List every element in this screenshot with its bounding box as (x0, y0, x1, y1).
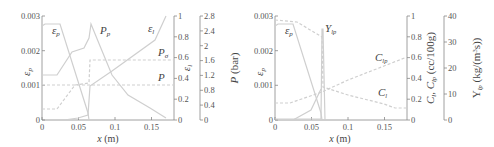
tick-label: 0 (40, 122, 44, 132)
annotation-eps-p: εp (285, 24, 293, 38)
annotation-C-l: Cl (378, 86, 387, 99)
tick-label: 0.1 (110, 122, 121, 132)
tick-label: 2.4 (204, 26, 215, 36)
tick-label: 10 (448, 89, 457, 99)
annotation-P-p: Pp (99, 24, 111, 38)
tick-label: 1 (411, 11, 415, 21)
series-Upsilon-lp (275, 29, 325, 120)
tick-label: 0.8 (204, 85, 215, 95)
tick-label: 0.2 (178, 94, 189, 104)
tick-label: 0.6 (411, 52, 422, 62)
tick-label: 0.001 (254, 80, 273, 90)
tick-label: 2 (204, 41, 208, 51)
right-chart: 0 0.05 0.1 0.15 x (m) 0 0.001 0.002 0.00… (253, 11, 483, 145)
tick-label: 40 (448, 11, 457, 21)
series-eps-p-lower (293, 89, 321, 120)
figure: 0 0.05 0.1 0.15 x (m) 0 0.001 0.002 0.00… (0, 0, 494, 147)
tick-label: 1 (178, 11, 182, 21)
annotation-P: P (157, 71, 165, 83)
right-y2-ticks: 0 0.2 0.4 0.6 0.8 1 (407, 11, 422, 125)
right-y2-axis-label: Cl, Clp (cc/100g) (424, 32, 437, 104)
left-y1-axis-label: εp (20, 68, 34, 76)
left-x-axis-label: x (m) (96, 133, 118, 145)
tick-label: 0.8 (411, 32, 422, 42)
right-y3-axis-label: Υlp (kg/(m3s)) (470, 37, 483, 98)
annotation-eps-p: εp (52, 24, 60, 38)
tick-label: 20 (448, 63, 457, 73)
series-eps-p (275, 24, 322, 120)
tick-label: 0.4 (204, 100, 215, 110)
tick-label: 0.002 (254, 46, 273, 56)
tick-label: 0.8 (178, 32, 189, 42)
tick-label: 0 (411, 115, 415, 125)
annotation-C-lp: Clp (375, 51, 388, 64)
tick-label: 0.003 (254, 11, 273, 21)
tick-label: 0.003 (21, 11, 40, 21)
tick-label: 0.2 (411, 94, 422, 104)
tick-label: 0.002 (21, 46, 40, 56)
tick-label: 0 (269, 115, 273, 125)
tick-label: 0 (204, 115, 208, 125)
tick-label: 0.05 (71, 122, 86, 132)
right-x-axis-label: x (m) (328, 133, 350, 145)
tick-label: 0 (448, 115, 452, 125)
tick-label: 0.05 (304, 122, 319, 132)
tick-label: 0.4 (178, 73, 189, 83)
tick-label: 0.1 (343, 122, 354, 132)
left-y2-axis-label: εl (180, 65, 194, 71)
annotation-eps-l: εl (148, 22, 154, 36)
annotation-P-sigma: Pσ (157, 46, 169, 60)
series-C-l (275, 20, 407, 108)
right-y3-ticks: 0 10 20 30 40 (444, 11, 457, 125)
left-x-ticks: 0 0.05 0.1 0.15 (40, 117, 159, 132)
right-y1-axis-label: εp (253, 68, 267, 76)
left-y3-ticks: 0 0.4 0.8 1.2 1.6 2 2.4 2.8 (200, 11, 215, 125)
tick-label: 0.4 (411, 73, 422, 83)
tick-label: 0 (36, 115, 40, 125)
right-y1-ticks: 0 0.001 0.002 0.003 (254, 11, 278, 125)
tick-label: 0.15 (377, 122, 392, 132)
tick-label: 0.6 (178, 52, 189, 62)
series-eps-p (42, 24, 89, 120)
tick-label: 2.8 (204, 11, 215, 21)
tick-label: 1.6 (204, 55, 215, 65)
tick-label: 0.001 (21, 80, 40, 90)
tick-label: 1.2 (204, 70, 215, 80)
tick-label: 0.15 (144, 122, 159, 132)
tick-label: 30 (448, 37, 457, 47)
left-y3-axis-label: P (bar) (228, 52, 241, 84)
tick-label: 0 (273, 122, 277, 132)
left-chart: 0 0.05 0.1 0.15 x (m) 0 0.001 0.002 0.00… (20, 11, 241, 145)
left-y1-ticks: 0 0.001 0.002 0.003 (21, 11, 45, 125)
tick-label: 0 (178, 115, 182, 125)
annotation-Upsilon-lp: Υlp (325, 22, 337, 35)
